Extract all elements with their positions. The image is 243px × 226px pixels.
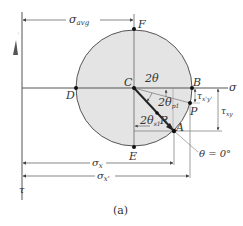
tau-axis-tick-mark: + — [17, 31, 20, 36]
figure-caption: (a) — [113, 204, 128, 217]
tau-xprime-yprime-label: τx'y' — [197, 91, 212, 103]
theta-zero-label: θ = 0° — [199, 148, 231, 159]
label-f: F — [137, 18, 146, 31]
theta-zero-leader — [174, 131, 198, 152]
rotation-sign-icon — [13, 40, 18, 55]
label-c: C — [124, 76, 133, 89]
label-e: E — [128, 150, 137, 163]
label-d: D — [65, 89, 75, 102]
tau-xy-label: τxy — [221, 106, 233, 118]
point-e — [132, 145, 136, 149]
tau-axis-label: τ — [19, 184, 25, 195]
point-c — [132, 86, 136, 90]
sigma-axis-label: σ — [229, 81, 237, 94]
point-f — [132, 27, 136, 31]
radius-label: R — [159, 114, 168, 127]
label-b: B — [192, 76, 201, 89]
two-theta-label: 2θ — [144, 72, 159, 85]
mohrs-circle-diagram: + σavg σx σx' D C F E B P A — [0, 0, 243, 226]
label-a: A — [175, 121, 184, 134]
label-p: P — [189, 105, 198, 118]
